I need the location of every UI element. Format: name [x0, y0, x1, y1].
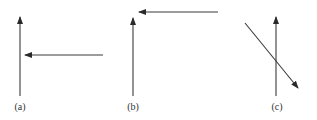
- panel-c: (c): [245, 17, 298, 113]
- diagonal-arrow-c: [245, 23, 298, 88]
- panel-b: (b): [127, 12, 218, 113]
- vector-diagram: (a) (b) (c): [0, 0, 317, 120]
- panel-a: (a): [14, 17, 103, 113]
- panel-label-c: (c): [271, 101, 282, 113]
- panel-label-b: (b): [127, 101, 139, 113]
- panel-label-a: (a): [14, 101, 25, 113]
